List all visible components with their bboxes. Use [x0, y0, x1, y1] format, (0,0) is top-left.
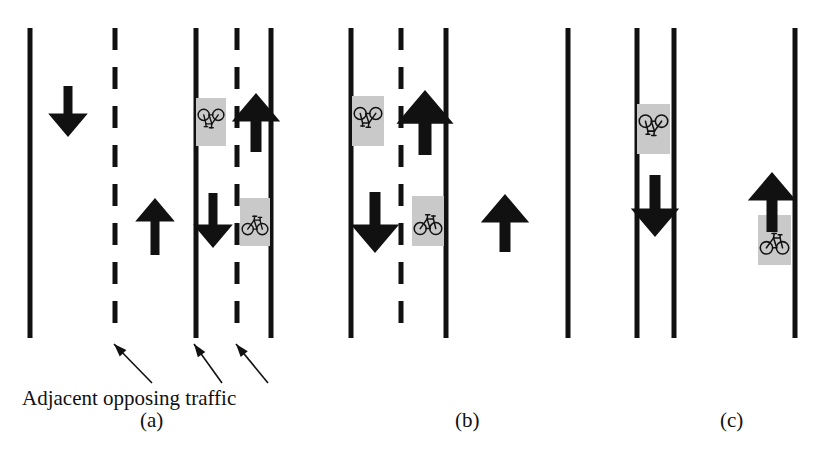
panel-a-lane-edge-solid	[194, 28, 199, 338]
figure-root: (a) (b) (c) Adjacent opposing traffic	[0, 0, 813, 462]
panel-b-bike-icon-upright	[412, 196, 444, 246]
panel-a-outer-right-solid	[269, 28, 274, 338]
dash-segment	[399, 184, 404, 206]
panel-a-outer-left-solid	[28, 28, 33, 338]
dash-segment	[113, 106, 118, 128]
dash-segment	[113, 184, 118, 206]
dash-segment	[235, 145, 240, 167]
dash-segment	[113, 67, 118, 89]
dash-segment	[399, 301, 404, 323]
dash-segment	[399, 262, 404, 284]
panel-c-bike-icon-inverted	[637, 104, 670, 154]
panel-c-outer-right-solid	[793, 28, 798, 338]
panel-b-arrow-up-isolated	[481, 194, 529, 252]
panel-a-bike-lane-dashed	[235, 28, 240, 323]
panel-b-outer-left-solid	[349, 28, 354, 338]
dash-segment	[113, 28, 118, 50]
dash-segment	[235, 28, 240, 50]
leader-to-lane-edge-solid-head	[194, 344, 205, 357]
dash-segment	[399, 223, 404, 245]
dash-segment	[113, 223, 118, 245]
panel-c-bike-lane-right-solid	[672, 28, 677, 338]
panel-b-outer-right-solid	[444, 28, 449, 338]
panel-a-centerline-dashed	[113, 28, 118, 323]
panel-a-arrow-up-inner-left-lane	[135, 198, 175, 255]
panel-label-c: (c)	[720, 408, 743, 433]
panel-a-arrow-down-right-lane	[193, 193, 233, 248]
panel-a-bike-icon-upright	[240, 198, 270, 246]
annotation-leaders	[114, 344, 268, 383]
panel-b-arrow-down-left-lane	[351, 192, 399, 253]
dash-segment	[235, 184, 240, 206]
dash-segment	[399, 145, 404, 167]
dash-segment	[235, 301, 240, 323]
dash-segment	[113, 145, 118, 167]
panel-c-outer-left-solid	[566, 28, 571, 338]
panel-b-centerline-dashed	[399, 28, 404, 323]
panel-b-bike-icon-inverted	[352, 96, 384, 146]
dash-segment	[113, 301, 118, 323]
panel-label-a: (a)	[140, 408, 163, 433]
panel-a-bike-icon-inverted	[196, 98, 226, 146]
dash-segment	[235, 67, 240, 89]
dash-segment	[399, 67, 404, 89]
dash-segment	[235, 262, 240, 284]
dash-segment	[399, 28, 404, 50]
dash-segment	[113, 262, 118, 284]
panel-c-bike-lane-left-solid	[635, 28, 640, 338]
panel-label-b: (b)	[455, 408, 480, 433]
dash-segment	[235, 223, 240, 245]
adjacent-opposing-traffic-label: Adjacent opposing traffic	[22, 386, 236, 411]
panel-a-arrow-down-far-left-lane	[48, 86, 88, 137]
